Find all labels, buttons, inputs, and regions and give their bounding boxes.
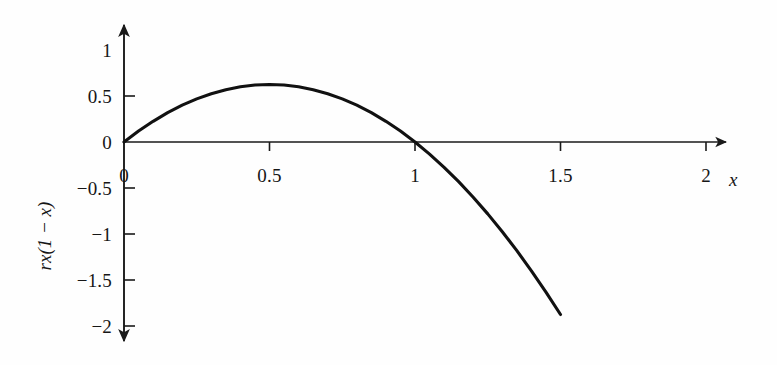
y-tick-label: −1 (91, 225, 112, 244)
y-tick-label: 0.5 (88, 87, 112, 106)
x-tick-label: 1 (410, 166, 420, 185)
x-tick-label: 2 (701, 166, 711, 185)
figure-container: 00.511.52 10.50−0.5−1−1.5−2 rx(1 − x) x (0, 0, 777, 365)
y-tick-label: −0.5 (77, 179, 112, 198)
y-axis-title: rx(1 − x) (35, 202, 54, 271)
y-tick-label: −1.5 (77, 271, 112, 290)
plot-canvas (0, 0, 777, 365)
y-tick-label: 1 (102, 41, 112, 60)
x-axis-ticks (270, 142, 707, 151)
y-tick-label: 0 (102, 133, 112, 152)
y-axis-ticks (124, 96, 135, 326)
data-curve (124, 85, 561, 315)
x-axis-title: x (729, 170, 737, 189)
x-tick-label: 0.5 (257, 166, 281, 185)
y-tick-label: −2 (91, 317, 112, 336)
x-tick-label: 1.5 (548, 166, 572, 185)
x-tick-label: 0 (119, 166, 129, 185)
axes-group (124, 25, 726, 341)
